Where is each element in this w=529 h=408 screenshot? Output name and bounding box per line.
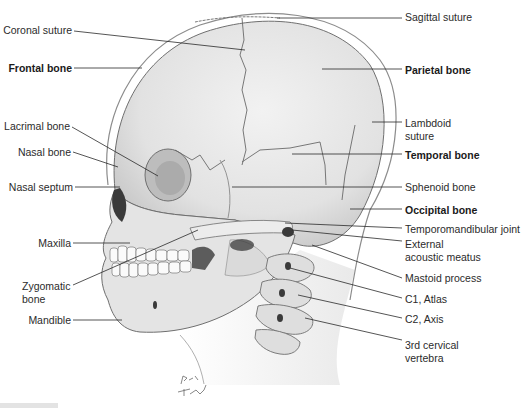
external-acoustic-meatus-opening: [282, 227, 294, 237]
label-c1-atlas: C1, Atlas: [405, 293, 447, 306]
label-parietal-bone: Parietal bone: [405, 64, 471, 77]
label-zygomatic-bone: Zygomatic bone: [22, 280, 70, 305]
label-coronal-suture: Coronal suture: [3, 24, 72, 37]
label-lambdoid-suture-line1: Lambdoid: [405, 117, 451, 130]
label-occipital-bone: Occipital bone: [405, 204, 477, 217]
label-lambdoid-suture-line2: suture: [405, 130, 451, 143]
label-nasal-bone: Nasal bone: [18, 146, 71, 159]
label-third-cervical-vertebra-line2: vertebra: [405, 352, 459, 365]
label-external-acoustic-meatus: External acoustic meatus: [405, 238, 481, 263]
footer-bar: [0, 403, 58, 408]
label-c2-axis: C2, Axis: [405, 313, 444, 326]
label-frontal-bone: Frontal bone: [8, 62, 72, 75]
artist-signature: [178, 376, 206, 396]
label-external-acoustic-meatus-line2: acoustic meatus: [405, 251, 481, 264]
label-third-cervical-vertebra-line1: 3rd cervical: [405, 339, 459, 352]
label-third-cervical-vertebra: 3rd cervical vertebra: [405, 339, 459, 364]
label-lacrimal-bone: Lacrimal bone: [4, 120, 70, 133]
label-lambdoid-suture: Lambdoid suture: [405, 117, 451, 142]
label-sphenoid-bone: Sphenoid bone: [405, 181, 476, 194]
label-nasal-septum: Nasal septum: [9, 181, 73, 194]
label-temporal-bone: Temporal bone: [405, 149, 479, 162]
label-mastoid-process: Mastoid process: [405, 272, 481, 285]
label-sagittal-suture: Sagittal suture: [405, 11, 472, 24]
label-external-acoustic-meatus-line1: External: [405, 238, 481, 251]
label-zygomatic-bone-line1: Zygomatic: [22, 280, 70, 293]
label-maxilla: Maxilla: [38, 237, 71, 250]
label-temporomandibular-joint: Temporomandibular joint: [405, 223, 520, 236]
label-mandible: Mandible: [28, 314, 71, 327]
label-zygomatic-bone-line2: bone: [22, 293, 70, 306]
